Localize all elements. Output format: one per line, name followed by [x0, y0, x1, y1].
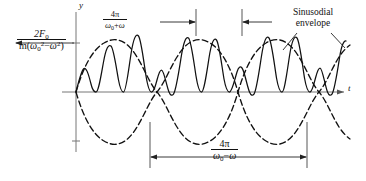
amplitude-denominator: m(ω02−ω2) — [17, 40, 66, 51]
axes-group — [62, 12, 344, 152]
amplitude-numerator-sub: 0 — [45, 33, 49, 41]
envelope-callout-line1: Sinusodial — [283, 7, 343, 18]
top-dim-right-arrowhead — [242, 20, 249, 25]
bottom-dim-denominator: ω0−ω — [211, 150, 238, 161]
bottom-dim-den-omega0-sub: 0 — [220, 155, 224, 163]
upper-envelope — [76, 40, 350, 92]
amplitude-den-prefix: m( — [19, 40, 30, 51]
top-dimension-label: 4π ω0+ω — [103, 10, 127, 31]
beat-oscillation-figure: y t 2F0 m(ω02−ω2) 4π ω0+ω 4π ω0−ω Sinuso… — [0, 0, 366, 181]
bottom-dim-den-omega: ω — [229, 150, 236, 161]
bottom-dim-right-arrowhead — [300, 155, 307, 160]
bottom-dim-den-omega0: ω — [213, 150, 220, 161]
amplitude-den-omega: ω — [50, 40, 57, 51]
top-dimension-fraction: 4π ω0+ω — [103, 10, 127, 29]
bottom-dim-left-arrowhead — [150, 155, 157, 160]
bottom-dimension-fraction: 4π ω0−ω — [211, 139, 238, 161]
top-dim-numerator: 4π — [103, 10, 127, 20]
envelope-callout: Sinusodial envelope — [283, 7, 343, 29]
top-dim-left-arrowhead — [189, 20, 196, 25]
top-dim-den-omega: ω — [119, 20, 125, 30]
top-dim-denominator: ω0+ω — [103, 20, 127, 30]
amplitude-fraction: 2F0 m(ω02−ω2) — [17, 29, 66, 51]
amplitude-den-omega0-sup: 2 — [41, 40, 45, 48]
lower-envelope — [76, 92, 350, 144]
top-dimension-group — [160, 9, 272, 36]
top-dim-den-omega0-sub: 0 — [111, 25, 114, 31]
y-axis-label: y — [79, 1, 83, 10]
bottom-dimension-label: 4π ω0−ω — [211, 139, 238, 162]
t-axis-label: t — [348, 84, 351, 93]
amplitude-numerator-text: 2F — [34, 28, 45, 39]
envelope-callout-line2: envelope — [283, 18, 343, 29]
amplitude-den-suffix: ) — [60, 40, 63, 51]
amplitude-label: 2F0 m(ω02−ω2) — [17, 29, 66, 52]
bottom-dim-numerator: 4π — [211, 139, 238, 150]
amplitude-numerator: 2F0 — [17, 29, 66, 40]
callout-leader-right — [331, 33, 345, 48]
t-axis-arrowhead — [337, 89, 344, 94]
amplitude-den-omega-sup: 2 — [57, 40, 61, 48]
